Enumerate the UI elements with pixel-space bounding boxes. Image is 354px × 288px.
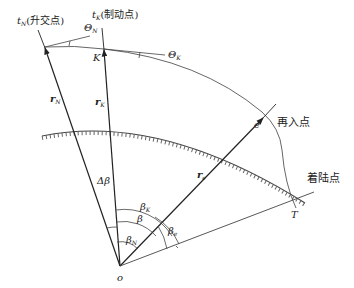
svg-text:T: T (291, 209, 299, 220)
svg-text:ΘN: ΘN (84, 22, 98, 34)
svg-text:e: e (254, 119, 260, 130)
svg-text:再入点: 再入点 (277, 116, 310, 129)
tangent-lines (45, 36, 165, 58)
svg-text:着陆点: 着陆点 (307, 171, 340, 185)
svg-text:rN: rN (50, 93, 61, 105)
svg-text:Δβ: Δβ (96, 175, 110, 186)
svg-text:βe: βe (167, 225, 178, 237)
svg-text:βK: βK (139, 201, 151, 213)
svg-text:rK: rK (95, 96, 105, 108)
svg-text:βN: βN (125, 234, 138, 246)
reentry-diagram: tN(升交点) tK(制动点) ΘN ΘK K rN rK re e 再入点 着… (0, 0, 354, 288)
svg-text:β: β (136, 213, 143, 224)
svg-text:K: K (92, 52, 101, 63)
earth-surface (42, 131, 305, 205)
svg-text:re: re (197, 169, 206, 181)
svg-text:tK(制动点): tK(制动点) (92, 8, 138, 21)
svg-text:ΘK: ΘK (168, 49, 181, 61)
svg-text:tN(升交点): tN(升交点) (17, 14, 64, 27)
svg-text:o: o (117, 272, 123, 283)
labels: tN(升交点) tK(制动点) ΘN ΘK K rN rK re e 再入点 着… (17, 8, 340, 283)
